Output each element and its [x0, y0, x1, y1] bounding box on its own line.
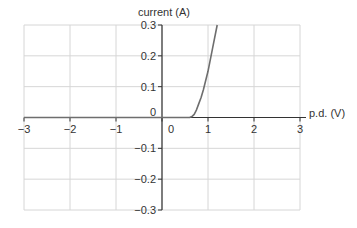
y-tick-label: 0.2	[141, 50, 156, 62]
y-tick-label: 0.1	[141, 81, 156, 93]
y-tick-label: 0.3	[141, 19, 156, 31]
y-axis-title: current (A)	[138, 6, 190, 18]
iv-curve	[24, 25, 217, 118]
x-tick-label: −3	[18, 123, 31, 135]
y-tick-label: −0.2	[134, 173, 156, 185]
x-tick-label: 0	[168, 123, 174, 135]
y-tick-label: −0.3	[134, 204, 156, 216]
diode-iv-chart: −3−2−10123−0.3−0.2−0.100.10.20.3 current…	[0, 0, 357, 228]
x-tick-label: −1	[110, 123, 123, 135]
x-tick-label: −2	[64, 123, 77, 135]
y-tick-label: 0	[150, 106, 156, 118]
y-tick-label: −0.1	[134, 142, 156, 154]
x-tick-label: 2	[251, 123, 257, 135]
x-tick-label: 3	[297, 123, 303, 135]
x-tick-label: 1	[205, 123, 211, 135]
x-axis-title: p.d. (V)	[309, 107, 345, 119]
